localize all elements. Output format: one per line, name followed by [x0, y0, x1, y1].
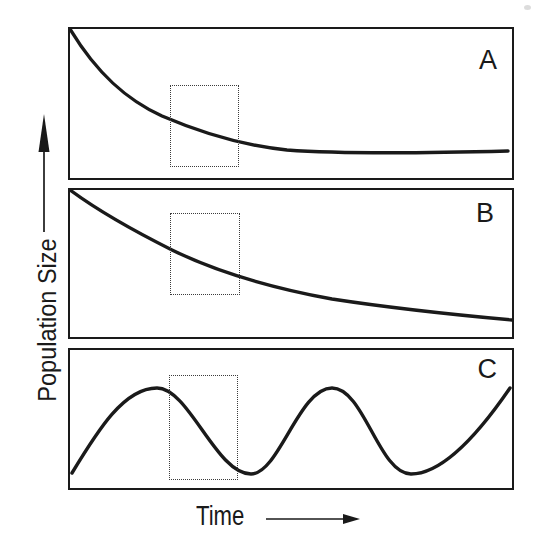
panel-c-plot [70, 350, 512, 488]
scan-artifact-dot [524, 5, 531, 10]
panel-a-curve [70, 29, 508, 153]
three-panel-population-figure: Population Size A B C Time [0, 0, 545, 543]
panel-c-highlight-box [169, 375, 238, 480]
x-axis-right-arrow-icon [263, 512, 363, 526]
panel-b-highlight-box [170, 213, 240, 295]
panel-b-curve [70, 190, 512, 320]
panel-b: B [68, 188, 514, 339]
panel-c-label: C [478, 356, 498, 383]
panel-a-label: A [479, 47, 497, 74]
x-axis-label: Time [196, 502, 244, 532]
y-axis-up-arrow-icon [36, 112, 52, 234]
panel-a: A [68, 27, 514, 180]
panel-c-curve [72, 388, 510, 474]
panel-b-plot [70, 190, 512, 337]
y-axis-label: Population Size [33, 226, 61, 414]
panel-a-highlight-box [170, 85, 239, 167]
panel-c: C [68, 348, 514, 490]
panel-a-plot [70, 29, 512, 178]
panel-b-label: B [476, 200, 494, 227]
